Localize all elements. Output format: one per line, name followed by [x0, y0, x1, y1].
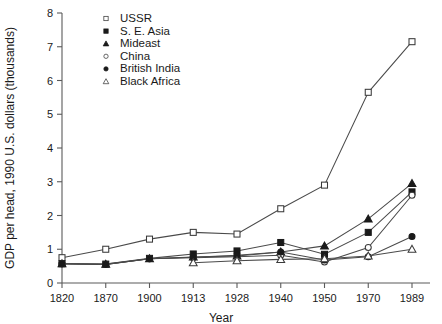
x-tick-label: 1970 — [356, 292, 380, 304]
y-tick-label: 8 — [47, 7, 53, 19]
x-tick-label: 1820 — [50, 292, 74, 304]
legend-label: Black Africa — [120, 75, 181, 87]
legend-item: Mideast — [103, 37, 161, 49]
y-tick-label: 1 — [47, 243, 53, 255]
x-tick-label: 1940 — [269, 292, 293, 304]
legend-item: Black Africa — [103, 75, 180, 87]
legend-label: S. E. Asia — [120, 25, 170, 37]
y-tick-label: 4 — [47, 142, 53, 154]
marker-circle — [278, 249, 284, 255]
legend-marker — [104, 67, 108, 71]
x-tick-label: 1928 — [225, 292, 249, 304]
legend-item: USSR — [104, 12, 152, 24]
legend-label: Mideast — [120, 37, 161, 49]
line-chart: 0123456781820187019001913192819401950197… — [0, 0, 442, 324]
data-point — [408, 180, 416, 187]
marker-circle — [365, 245, 371, 251]
marker-square — [409, 39, 415, 45]
y-tick-label: 2 — [47, 210, 53, 222]
legend-marker — [104, 54, 108, 58]
data-point — [103, 261, 109, 267]
legend: USSRS. E. AsiaMideastChinaBritish IndiaB… — [103, 12, 180, 87]
x-tick-label: 1900 — [137, 292, 161, 304]
marker-square — [103, 246, 109, 252]
marker-circle — [104, 54, 108, 58]
data-point — [409, 39, 415, 45]
marker-square — [147, 236, 153, 242]
series-ussr — [59, 39, 415, 261]
series-line — [62, 42, 412, 258]
marker-circle — [104, 67, 108, 71]
marker-circle — [147, 256, 153, 262]
data-point — [365, 89, 371, 95]
marker-square — [190, 229, 196, 235]
marker-square — [365, 89, 371, 95]
data-point — [234, 231, 240, 237]
x-axis-title: Year — [209, 311, 233, 324]
marker-triangle — [103, 41, 109, 46]
marker-triangle — [408, 180, 416, 187]
data-point — [322, 182, 328, 188]
x-tick-label: 1950 — [312, 292, 336, 304]
marker-circle — [103, 261, 109, 267]
y-tick-label: 6 — [47, 75, 53, 87]
legend-item: S. E. Asia — [104, 25, 171, 37]
data-point — [103, 246, 109, 252]
data-point — [321, 242, 329, 249]
data-point — [409, 192, 415, 198]
legend-marker — [103, 41, 109, 46]
y-tick-label: 3 — [47, 176, 53, 188]
y-tick-label: 0 — [47, 277, 53, 289]
legend-label: USSR — [120, 12, 152, 24]
data-point — [278, 206, 284, 212]
marker-circle — [409, 233, 415, 239]
y-axis-title: GDP per head, 1990 U.S. dollars (thousan… — [3, 27, 17, 269]
data-point — [409, 233, 415, 239]
marker-circle — [409, 192, 415, 198]
marker-square — [278, 240, 284, 246]
legend-marker — [104, 29, 108, 33]
data-point — [408, 245, 416, 252]
legend-marker — [104, 16, 108, 20]
data-point — [147, 256, 153, 262]
data-point — [278, 240, 284, 246]
marker-square — [278, 206, 284, 212]
marker-square — [322, 182, 328, 188]
marker-square — [234, 231, 240, 237]
y-tick-label: 7 — [47, 41, 53, 53]
legend-label: China — [120, 50, 151, 62]
data-point — [190, 229, 196, 235]
marker-circle — [59, 261, 65, 267]
x-tick-label: 1989 — [400, 292, 424, 304]
marker-square — [365, 229, 371, 235]
x-tick-label: 1870 — [94, 292, 118, 304]
legend-item: British India — [104, 62, 181, 74]
x-tick-label: 1913 — [181, 292, 205, 304]
y-tick-label: 5 — [47, 108, 53, 120]
data-point — [365, 245, 371, 251]
marker-square — [104, 16, 108, 20]
data-point — [147, 236, 153, 242]
legend-item: China — [104, 50, 151, 62]
legend-label: British India — [120, 62, 181, 74]
data-point — [278, 249, 284, 255]
data-point — [365, 229, 371, 235]
data-point — [59, 261, 65, 267]
marker-triangle — [408, 245, 416, 252]
legend-marker — [103, 79, 109, 84]
chart-container: 0123456781820187019001913192819401950197… — [0, 0, 442, 324]
marker-square — [104, 29, 108, 33]
marker-triangle — [103, 79, 109, 84]
marker-triangle — [321, 242, 329, 249]
